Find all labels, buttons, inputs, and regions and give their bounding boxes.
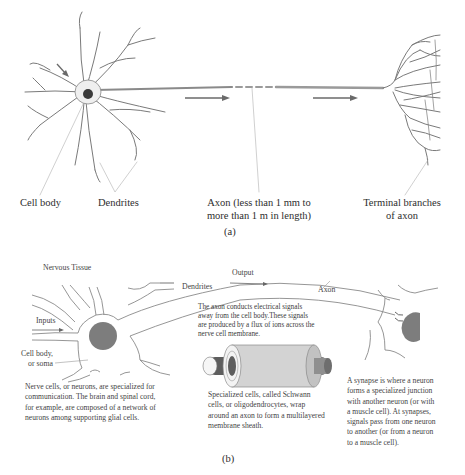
nucleus-left <box>89 322 117 350</box>
neuron-note-line: neurons among supporting glial cells. <box>25 413 185 423</box>
schwann-note-line: around an axon to form a multilayered <box>208 411 353 421</box>
synapse-note-line: with another neuron (or with <box>347 397 465 407</box>
synapse-note-line: to a muscle cell). <box>347 438 465 448</box>
nucleus-right <box>402 312 421 342</box>
label-cell-body-b: Cell body, or soma <box>21 349 53 369</box>
label-output: Output <box>232 268 254 277</box>
panel-b-title: Nervous Tissue <box>43 263 91 272</box>
neuron-note-line: communication. The brain and spinal cord… <box>25 392 185 402</box>
neuron-note-line: for example, are composed of a network o… <box>25 403 185 413</box>
axon-note-line: nerve cell membrane. <box>198 330 338 339</box>
synapse-note-line: to another (or from a neuron <box>347 427 465 437</box>
myelin-sheath <box>203 345 332 387</box>
synapse-note-line: forms a specialized junction <box>347 386 465 396</box>
label-axon-b: Axon <box>318 285 335 294</box>
synapse-note: A synapse is where a neuron forms a spec… <box>347 376 465 448</box>
schwann-note-line: membrane sheath. <box>208 421 353 431</box>
schwann-note-line: cells, or oligodendrocytes, wrap <box>208 400 353 410</box>
schwann-note: Specialized cells, called Schwann cells,… <box>208 390 353 431</box>
axon-note-line: The axon conducts electrical signals <box>198 303 338 312</box>
axon-note: The axon conducts electrical signals awa… <box>198 303 338 339</box>
synapse-note-line: signals pass from one neuron <box>347 417 465 427</box>
neuron-note-line: Nerve cells, or neurons, are specialized… <box>25 382 185 392</box>
caption-b: (b) <box>222 452 234 465</box>
label-cell-body-line2: or soma <box>21 359 53 369</box>
label-inputs: Inputs <box>36 316 56 325</box>
synapse-note-line: A synapse is where a neuron <box>347 376 465 386</box>
synapse-note-line: a muscle cell). At synapses, <box>347 407 465 417</box>
neuron-note: Nerve cells, or neurons, are specialized… <box>25 382 185 423</box>
label-dendrites-b: Dendrites <box>182 282 212 291</box>
axon-note-line: are produced by a flux of ions across th… <box>198 321 338 330</box>
axon-note-line: away from the cell body.These signals <box>198 312 338 321</box>
label-cell-body-line1: Cell body, <box>21 349 53 359</box>
schwann-note-line: Specialized cells, called Schwann <box>208 390 353 400</box>
